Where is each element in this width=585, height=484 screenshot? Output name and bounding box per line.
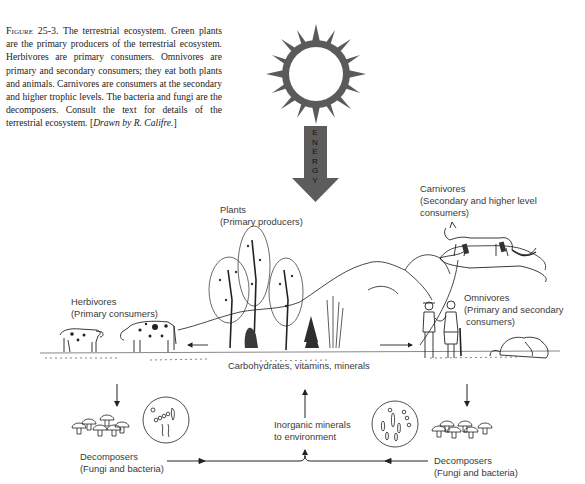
carnivores-subtitle-line-2: consumers) (420, 207, 537, 219)
decomposers-left-label: Decomposers (Fungi and bacteria) (80, 451, 164, 475)
herbivores-title: Herbivores (71, 296, 158, 308)
rocks (490, 337, 548, 358)
inorganic-minerals-label: Inorganic minerals to environment (274, 419, 351, 443)
ecosystem-illustration (0, 0, 585, 484)
plants-label: Plants (Primary producers) (220, 204, 303, 228)
herbivore-cows (60, 321, 176, 352)
bacteria-left-icon (143, 397, 189, 443)
omnivores-subtitle-line-2: consumers) (464, 316, 564, 328)
energy-label: ENERGY (310, 128, 320, 186)
plants-title: Plants (220, 204, 303, 216)
inorganic-line-1: Inorganic minerals (274, 419, 351, 431)
mushrooms-left-icon (72, 415, 129, 436)
decomposers-right-subtitle: (Fungi and bacteria) (434, 467, 518, 479)
trees (209, 226, 343, 350)
mushrooms-right-icon (432, 421, 492, 438)
decomposers-right-label: Decomposers (Fungi and bacteria) (434, 455, 518, 479)
plants-subtitle: (Primary producers) (220, 216, 303, 228)
herbivores-label: Herbivores (Primary consumers) (71, 296, 158, 320)
to-decomposer-arrows (117, 384, 467, 406)
omnivores-title: Omnivores (464, 292, 564, 304)
decomposers-left-subtitle: (Fungi and bacteria) (80, 463, 164, 475)
bacteria-right-icon (372, 401, 418, 447)
inorganic-line-2: to environment (274, 431, 351, 443)
decomposers-left-title: Decomposers (80, 451, 164, 463)
omnivores-label: Omnivores (Primary and secondary consume… (464, 292, 564, 328)
herbivores-subtitle: (Primary consumers) (71, 308, 158, 320)
decomposers-right-title: Decomposers (434, 455, 518, 467)
sun-icon (266, 24, 366, 124)
carnivores-title: Carnivores (420, 183, 537, 195)
omnivores-subtitle-line-1: (Primary and secondary (464, 304, 564, 316)
carnivores-subtitle-line-1: (Secondary and higher level (420, 195, 537, 207)
carnivores-label: Carnivores (Secondary and higher level c… (420, 183, 537, 219)
nutrients-label: Carbohydrates, vitamins, minerals (228, 360, 370, 372)
